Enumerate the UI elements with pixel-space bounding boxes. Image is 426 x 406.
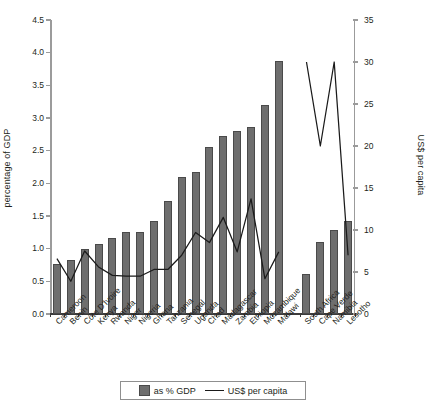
legend-bar-label: as % GDP bbox=[154, 386, 196, 396]
y-axis-right-tick-label: 15 bbox=[364, 184, 404, 193]
y-axis-right-tick-label: 35 bbox=[364, 16, 404, 25]
y-axis-left-tick-label: 1.0 bbox=[4, 244, 44, 253]
chart-legend: as % GDP US$ per capita bbox=[120, 381, 306, 400]
y-axis-left-tick-label: 4.0 bbox=[4, 48, 44, 57]
y-axis-right-title: US$ per capita bbox=[416, 100, 426, 230]
line-series-usd-per-capita bbox=[50, 20, 355, 314]
plot-area: 0.00.51.01.52.02.53.03.54.04.5 051015202… bbox=[50, 20, 355, 314]
legend-bar-swatch-icon bbox=[139, 385, 150, 396]
y-axis-right-tick-label: 0 bbox=[364, 310, 404, 319]
y-axis-left-tick-label: 3.0 bbox=[4, 114, 44, 123]
x-axis-category-labels: CameroonBeninCôte D'IvoireKenyaRwandaNig… bbox=[0, 318, 422, 378]
y-axis-left-tick-label: 1.5 bbox=[4, 212, 44, 221]
legend-item-line: US$ per capita bbox=[205, 386, 288, 396]
legend-item-bar: as % GDP bbox=[139, 385, 196, 396]
y-axis-left-tick-label: 0.0 bbox=[4, 310, 44, 319]
y-axis-left-tick-label: 2.5 bbox=[4, 146, 44, 155]
legend-line-label: US$ per capita bbox=[228, 386, 288, 396]
y-axis-left-tick-label: 3.5 bbox=[4, 81, 44, 90]
y-axis-right-tick-label: 10 bbox=[364, 226, 404, 235]
x-axis-tick bbox=[300, 313, 301, 317]
y-axis-right-tick-label: 25 bbox=[364, 100, 404, 109]
line-path bbox=[57, 199, 279, 281]
y-axis-right-tick-label: 30 bbox=[364, 58, 404, 67]
usd-per-capita-line bbox=[50, 20, 355, 314]
legend-line-swatch-icon bbox=[205, 390, 224, 391]
y-axis-right-tick-label: 5 bbox=[364, 268, 404, 277]
y-axis-left-tick-label: 0.5 bbox=[4, 277, 44, 286]
y-axis-left-tick-label: 2.0 bbox=[4, 179, 44, 188]
y-axis-right-tick-label: 20 bbox=[364, 142, 404, 151]
line-path bbox=[306, 62, 348, 255]
x-axis-tick bbox=[50, 313, 51, 317]
y-axis-left-tick-label: 4.5 bbox=[4, 16, 44, 25]
